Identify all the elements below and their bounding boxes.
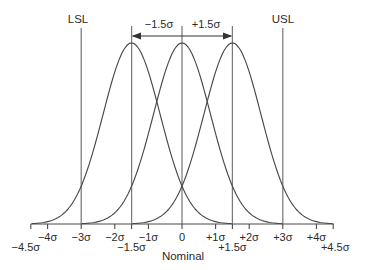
chart-canvas: −4σ−3σ−2σ−1σ0+1σ+2σ+3σ+4σ−4.5σ−1.5σ+1.5σ…: [0, 0, 365, 270]
process-shift-diagram: −4σ−3σ−2σ−1σ0+1σ+2σ+3σ+4σ−4.5σ−1.5σ+1.5σ…: [0, 0, 365, 270]
usl-label: USL: [272, 13, 295, 25]
x-tick-label: −3σ: [72, 231, 92, 243]
x-tick-label: −4.5σ: [12, 241, 41, 253]
x-tick-label: +4.5σ: [321, 241, 350, 253]
x-tick-label: +3σ: [273, 231, 293, 243]
arrow-left-head-icon: [132, 33, 141, 40]
x-tick-label: −1.5σ: [117, 241, 146, 253]
x-tick-label: 0: [179, 231, 185, 243]
x-tick-label: −4σ: [38, 231, 58, 243]
shift-left-label: −1.5σ: [145, 18, 174, 30]
lsl-label: LSL: [68, 13, 89, 25]
x-axis-title: Nominal: [162, 250, 204, 262]
x-tick-label: +1.5σ: [218, 241, 247, 253]
arrow-right-head-icon: [223, 33, 232, 40]
axis-ticks-group: [31, 224, 333, 229]
reference-lines-group: [81, 26, 283, 224]
shift-right-label: +1.5σ: [192, 18, 221, 30]
